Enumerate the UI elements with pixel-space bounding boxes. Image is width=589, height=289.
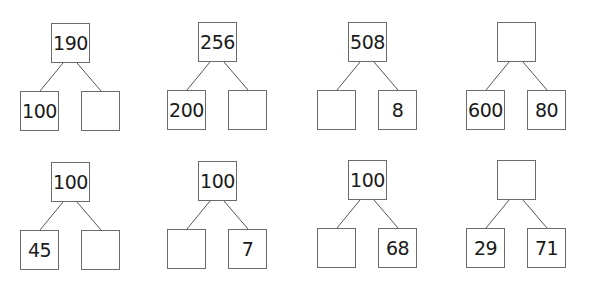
whole-box[interactable]: 190 — [51, 23, 90, 63]
whole-box[interactable]: 100 — [348, 160, 387, 200]
part-box-left[interactable]: 45 — [20, 230, 59, 270]
number-bond-1: 190 100 — [20, 23, 130, 135]
number-bond-4: 600 80 — [466, 22, 576, 134]
part-box-right[interactable]: 7 — [228, 229, 267, 269]
whole-box[interactable]: 508 — [348, 22, 387, 62]
part-box-right[interactable] — [81, 91, 120, 131]
part-box-left[interactable]: 200 — [167, 90, 206, 130]
part-box-left[interactable]: 29 — [466, 228, 505, 268]
part-box-left[interactable]: 100 — [20, 91, 59, 131]
part-box-left[interactable] — [167, 229, 206, 269]
number-bond-7: 100 68 — [317, 160, 427, 272]
part-box-left[interactable]: 600 — [466, 90, 505, 130]
part-box-right[interactable]: 68 — [378, 228, 417, 268]
number-bond-2: 256 200 — [167, 22, 277, 134]
whole-box[interactable]: 256 — [198, 22, 237, 62]
part-box-right[interactable]: 71 — [527, 228, 566, 268]
part-box-left[interactable] — [317, 228, 356, 268]
part-box-right[interactable] — [228, 90, 267, 130]
part-box-right[interactable]: 8 — [378, 90, 417, 130]
whole-box[interactable] — [497, 22, 536, 62]
number-bond-3: 508 8 — [317, 22, 427, 134]
part-box-right[interactable]: 80 — [527, 90, 566, 130]
number-bond-6: 100 7 — [167, 161, 277, 273]
whole-box[interactable]: 100 — [51, 162, 90, 202]
number-bond-5: 100 45 — [20, 162, 130, 274]
whole-box[interactable] — [497, 160, 536, 200]
part-box-right[interactable] — [81, 230, 120, 270]
whole-box[interactable]: 100 — [198, 161, 237, 201]
number-bond-8: 29 71 — [466, 160, 576, 272]
part-box-left[interactable] — [317, 90, 356, 130]
